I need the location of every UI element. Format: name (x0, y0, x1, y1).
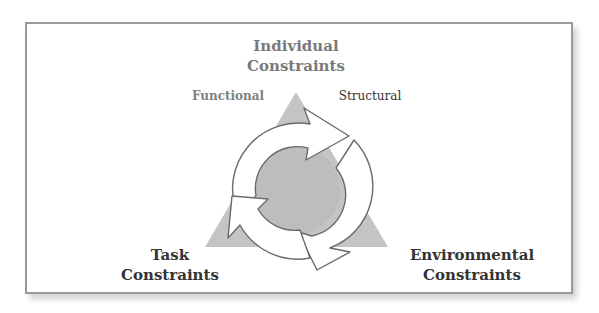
structural-label: Structural (330, 86, 410, 106)
functional-label: Functional (183, 86, 273, 106)
label-line: Individual (226, 36, 366, 56)
label-line: Task (110, 245, 230, 265)
label-line: Constraints (226, 56, 366, 76)
task-constraints-label: TaskConstraints (110, 245, 230, 285)
individual-constraints-label: IndividualConstraints (226, 36, 366, 76)
environmental-constraints-label: EnvironmentalConstraints (397, 245, 547, 285)
label-line: Constraints (397, 265, 547, 285)
label-line: Constraints (110, 265, 230, 285)
label-line: Environmental (397, 245, 547, 265)
